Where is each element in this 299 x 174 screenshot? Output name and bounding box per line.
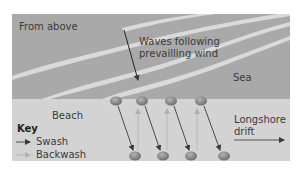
drift-label-line1: Longshore — [234, 114, 286, 125]
drift-label-line2: drift — [234, 126, 255, 137]
key-backwash-label: Backwash — [36, 149, 86, 160]
key-swash-label: Swash — [36, 136, 68, 147]
key-title: Key — [17, 123, 38, 134]
longshore-drift-diagram: From above Waves following prevailling w… — [12, 14, 290, 161]
waves-label-line2: prevailling wind — [139, 48, 218, 59]
sea-label: Sea — [233, 72, 252, 83]
beach-label: Beach — [52, 110, 83, 121]
view-label: From above — [19, 21, 78, 32]
waves-label-line1: Waves following — [139, 36, 220, 47]
